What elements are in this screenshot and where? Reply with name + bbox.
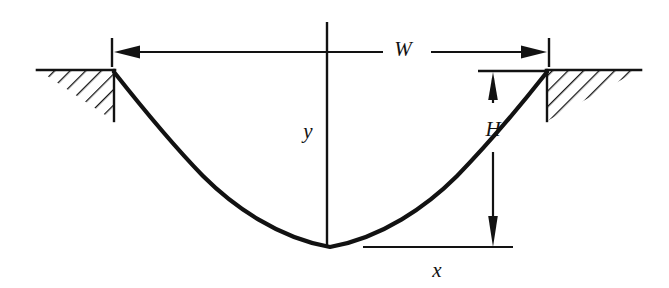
catenary-curve <box>114 72 547 247</box>
width-dimension: W <box>112 37 549 67</box>
height-label: H <box>484 117 502 141</box>
y-axis-label: y <box>301 119 313 143</box>
x-axis: x <box>363 247 513 282</box>
left-ground-bank <box>30 62 126 128</box>
right-ground-bank <box>543 62 645 128</box>
channel-profile-curve <box>114 72 547 247</box>
x-axis-label: x <box>431 258 442 282</box>
height-up-arrowhead <box>488 72 498 100</box>
y-axis: y <box>301 22 327 248</box>
cross-section-diagram: W y H x <box>0 0 669 288</box>
right-ground-hatching <box>543 62 645 128</box>
height-dimension: H <box>478 71 549 247</box>
width-label: W <box>394 37 414 61</box>
figure-canvas: W y H x <box>0 0 669 288</box>
height-down-arrowhead <box>488 216 498 247</box>
left-ground-hatching <box>30 62 126 128</box>
width-right-arrowhead <box>521 46 547 59</box>
